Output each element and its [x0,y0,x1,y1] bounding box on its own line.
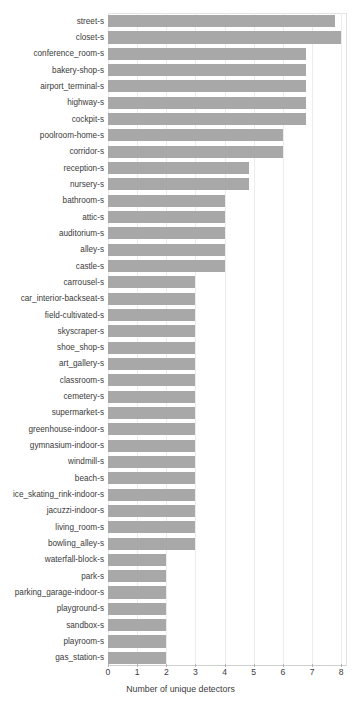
bar-row[interactable] [108,225,347,241]
bar-row[interactable] [108,340,347,356]
bar-row[interactable] [108,633,347,649]
y-axis-label: classroom-s [60,376,104,385]
bar-row[interactable] [108,209,347,225]
bar-row[interactable] [108,617,347,633]
bar-row[interactable] [108,62,347,78]
bar-row[interactable] [108,470,347,486]
bar[interactable] [108,146,283,158]
bar-row[interactable] [108,454,347,470]
y-axis-label: greenhouse-indoor-s [28,425,104,434]
bar-row[interactable] [108,144,347,160]
bar-row[interactable] [108,95,347,111]
bar[interactable] [108,162,249,174]
bar[interactable] [108,440,195,452]
bar[interactable] [108,342,195,354]
bar-row[interactable] [108,111,347,127]
bar-row[interactable] [108,421,347,437]
bar-row[interactable] [108,356,347,372]
bar[interactable] [108,276,195,288]
bar[interactable] [108,538,195,550]
bar[interactable] [108,619,166,631]
x-axis-tick-label: 3 [193,667,198,677]
bar-row[interactable] [108,486,347,502]
y-axis-label: art_gallery-s [59,359,104,368]
bar-row[interactable] [108,13,347,29]
bar[interactable] [108,293,195,305]
bar[interactable] [108,244,225,256]
bar[interactable] [108,586,166,598]
bar-row[interactable] [108,291,347,307]
y-axis-label: cemetery-s [64,392,105,401]
y-axis-label: airport_terminal-s [40,82,104,91]
bar[interactable] [108,456,195,468]
bar[interactable] [108,505,195,517]
bar-row[interactable] [108,46,347,62]
y-axis-label: carrousel-s [64,278,105,287]
bar[interactable] [108,570,166,582]
bar[interactable] [108,652,166,664]
bar-row[interactable] [108,552,347,568]
bar[interactable] [108,64,306,76]
bar[interactable] [108,80,306,92]
bar[interactable] [108,260,225,272]
bar[interactable] [108,31,341,43]
bar[interactable] [108,358,195,370]
bar[interactable] [108,603,166,615]
bar-row[interactable] [108,584,347,600]
bar[interactable] [108,423,195,435]
bar-row[interactable] [108,176,347,192]
bar[interactable] [108,407,195,419]
bar[interactable] [108,48,306,60]
bar[interactable] [108,391,195,403]
bar[interactable] [108,635,166,647]
bar-row[interactable] [108,503,347,519]
x-axis-ticks: 012345678 [108,667,347,681]
bar-row[interactable] [108,535,347,551]
bar[interactable] [108,129,283,141]
bar[interactable] [108,374,195,386]
bar-row[interactable] [108,193,347,209]
bar-row[interactable] [108,568,347,584]
bar[interactable] [108,15,335,27]
x-axis-tick-label: 5 [251,667,256,677]
bar[interactable] [108,472,195,484]
bar[interactable] [108,489,195,501]
bar-row[interactable] [108,601,347,617]
bar[interactable] [108,97,306,109]
bar-row[interactable] [108,78,347,94]
y-axis-label: street-s [77,17,104,26]
bar-row[interactable] [108,405,347,421]
bar-row[interactable] [108,372,347,388]
bar[interactable] [108,309,195,321]
bar-row[interactable] [108,29,347,45]
bar-row[interactable] [108,307,347,323]
x-axis-tick-label: 0 [106,667,111,677]
bar-row[interactable] [108,127,347,143]
bar-chart: street-scloset-sconference_room-sbakery-… [0,0,361,703]
x-axis-tick-label: 7 [310,667,315,677]
x-axis-tick-label: 1 [135,667,140,677]
bar[interactable] [108,227,225,239]
y-axis-label: conference_room-s [33,49,104,58]
y-axis-label: auditorium-s [59,229,104,238]
bar-row[interactable] [108,437,347,453]
x-axis-tick-label: 6 [280,667,285,677]
bar[interactable] [108,113,306,125]
bar[interactable] [108,178,249,190]
bar[interactable] [108,211,225,223]
y-axis-label: living_room-s [55,523,104,532]
bar-row[interactable] [108,519,347,535]
bar-row[interactable] [108,323,347,339]
bar-row[interactable] [108,258,347,274]
bar[interactable] [108,325,195,337]
y-axis-label: windmill-s [68,457,104,466]
bar-row[interactable] [108,242,347,258]
bar[interactable] [108,521,195,533]
bar[interactable] [108,554,166,566]
y-axis-label: cockpit-s [72,115,104,124]
y-axis-label: sandbox-s [66,621,104,630]
bar-row[interactable] [108,388,347,404]
bar-row[interactable] [108,160,347,176]
bar[interactable] [108,195,225,207]
bar-row[interactable] [108,274,347,290]
